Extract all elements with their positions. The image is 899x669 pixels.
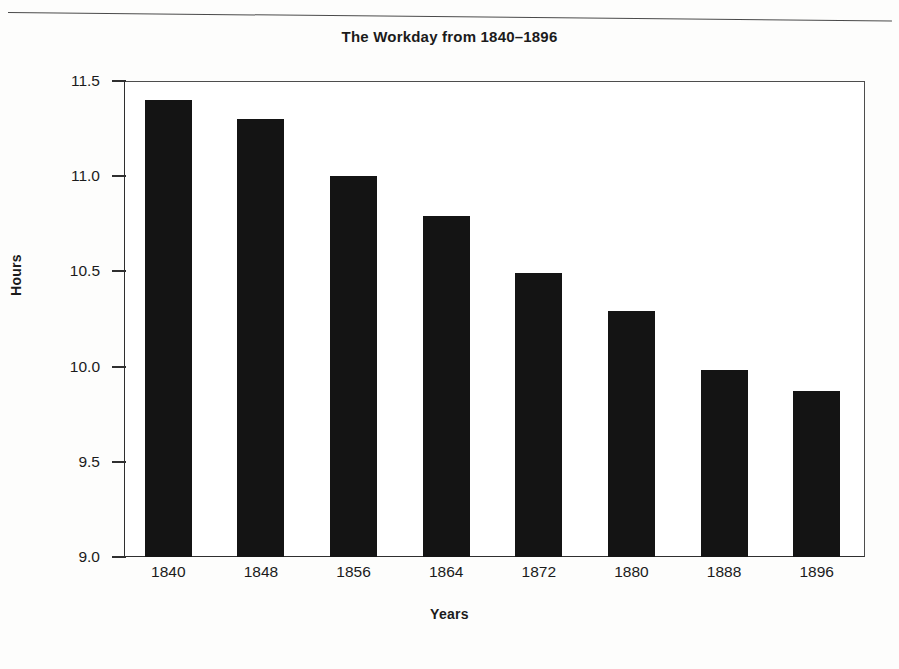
y-tick-11.0 <box>112 175 126 177</box>
chart-title: The Workday from 1840–1896 <box>0 28 899 45</box>
y-tick-label-11.0: 11.0 <box>38 167 100 185</box>
y-tick-11.5 <box>112 80 126 82</box>
y-axis-title: Hours <box>8 254 24 296</box>
x-tick-label-1856: 1856 <box>309 563 399 581</box>
y-tick-label-10.0: 10.0 <box>38 358 100 376</box>
x-tick-label-1880: 1880 <box>586 563 676 581</box>
page-top-rule <box>8 12 892 21</box>
x-axis-title: Years <box>0 606 899 622</box>
x-tick-label-1896: 1896 <box>772 563 862 581</box>
y-tick-10.0 <box>112 366 126 368</box>
x-tick-label-1888: 1888 <box>679 563 769 581</box>
x-tick-label-1864: 1864 <box>401 563 491 581</box>
y-tick-label-10.5: 10.5 <box>38 262 100 280</box>
x-tick-label-1848: 1848 <box>216 563 306 581</box>
y-tick-label-9.5: 9.5 <box>38 453 100 471</box>
y-tick-label-9.0: 9.0 <box>38 548 100 566</box>
plot-area <box>124 81 865 557</box>
y-tick-9.0 <box>112 556 126 558</box>
y-tick-10.5 <box>112 270 126 272</box>
chart-page: The Workday from 1840–1896 9.09.510.010.… <box>0 0 899 669</box>
x-tick-label-1872: 1872 <box>494 563 584 581</box>
y-tick-label-11.5: 11.5 <box>38 72 100 90</box>
x-tick-label-1840: 1840 <box>123 563 213 581</box>
y-tick-9.5 <box>112 461 126 463</box>
